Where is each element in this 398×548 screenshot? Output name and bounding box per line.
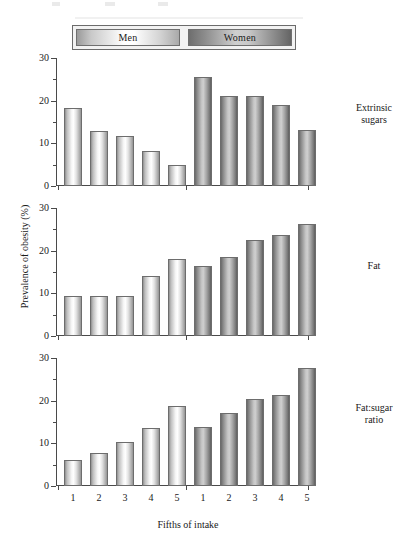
bar-women-2 xyxy=(220,413,238,486)
bar-women-5 xyxy=(298,368,316,486)
bar-men-5 xyxy=(168,259,186,336)
bar-women-1 xyxy=(194,427,212,486)
panel-fat-sugar-ratio: 01020301234512345Fat:sugarratio xyxy=(56,358,308,486)
y-tick-major xyxy=(51,358,56,359)
panel-label-line1: Fat:sugar xyxy=(318,402,398,414)
bar-men-2 xyxy=(90,131,108,186)
y-axis-line xyxy=(56,208,57,336)
y-tick-major xyxy=(51,58,56,59)
x-tick xyxy=(186,186,187,190)
y-tick-minor xyxy=(53,315,56,316)
x-tick xyxy=(308,486,309,490)
x-tick xyxy=(58,336,59,340)
y-tick-major xyxy=(51,401,56,402)
y-tick-label: 30 xyxy=(39,353,49,363)
x-tick-label: 5 xyxy=(305,492,310,503)
bar-women-3 xyxy=(246,96,264,186)
y-tick-label: 10 xyxy=(39,138,49,148)
y-tick-minor xyxy=(53,122,56,123)
y-tick-label: 20 xyxy=(39,96,49,106)
panel-label: Fat:sugarratio xyxy=(318,402,398,426)
bar-men-2 xyxy=(90,296,108,336)
bar-women-2 xyxy=(220,257,238,336)
scan-artifact xyxy=(52,2,60,6)
x-tick-label: 2 xyxy=(227,492,232,503)
bar-men-5 xyxy=(168,406,186,486)
bar-men-2 xyxy=(90,453,108,486)
x-tick-label: 1 xyxy=(201,492,206,503)
bar-men-3 xyxy=(116,442,134,486)
panel-label: Fat xyxy=(318,260,398,272)
bar-men-3 xyxy=(116,136,134,186)
panel-label: Extrinsicsugars xyxy=(318,102,398,126)
bar-women-1 xyxy=(194,266,212,336)
bar-women-4 xyxy=(272,105,290,186)
x-axis-title: Fifths of intake xyxy=(0,519,376,530)
y-tick-major xyxy=(51,251,56,252)
x-tick-label: 3 xyxy=(123,492,128,503)
plot-area: 0102030 xyxy=(56,208,308,336)
bar-men-4 xyxy=(142,428,160,486)
panel-extrinsic-sugars: 0102030Extrinsicsugars xyxy=(56,58,308,186)
x-tick-label: 5 xyxy=(175,492,180,503)
y-tick-major xyxy=(51,336,56,337)
legend-swatch-men: Men xyxy=(76,29,180,46)
y-tick-major xyxy=(51,186,56,187)
legend-swatch-women: Women xyxy=(188,29,292,46)
x-tick-label: 2 xyxy=(97,492,102,503)
y-tick-label: 10 xyxy=(39,438,49,448)
legend-label-men: Men xyxy=(118,32,137,43)
y-tick-minor xyxy=(53,229,56,230)
bar-men-1 xyxy=(64,460,82,486)
bar-women-3 xyxy=(246,240,264,336)
y-tick-label: 20 xyxy=(39,396,49,406)
scan-artifact xyxy=(75,17,303,19)
x-tick-label: 4 xyxy=(279,492,284,503)
bar-women-5 xyxy=(298,130,316,186)
x-tick xyxy=(308,336,309,340)
x-tick xyxy=(186,336,187,340)
y-tick-label: 0 xyxy=(44,181,49,191)
scan-artifact xyxy=(158,2,168,6)
panel-label-line1: Extrinsic xyxy=(318,102,398,114)
y-tick-minor xyxy=(53,272,56,273)
x-tick-label: 3 xyxy=(253,492,258,503)
bar-men-3 xyxy=(116,296,134,336)
y-tick-minor xyxy=(53,422,56,423)
chart-legend: Men Women xyxy=(72,25,296,50)
bar-women-4 xyxy=(272,395,290,486)
bar-men-4 xyxy=(142,151,160,186)
y-axis-line xyxy=(56,358,57,486)
y-tick-major xyxy=(51,143,56,144)
x-tick-label: 1 xyxy=(71,492,76,503)
y-tick-major xyxy=(51,293,56,294)
y-tick-label: 30 xyxy=(39,203,49,213)
legend-label-women: Women xyxy=(224,32,256,43)
y-tick-label: 10 xyxy=(39,288,49,298)
x-tick xyxy=(58,486,59,490)
y-tick-minor xyxy=(53,465,56,466)
bar-men-4 xyxy=(142,276,160,336)
x-tick xyxy=(186,486,187,490)
bar-women-2 xyxy=(220,96,238,186)
panel-fat: 0102030Fat xyxy=(56,208,308,336)
y-tick-minor xyxy=(53,165,56,166)
x-tick-label: 4 xyxy=(149,492,154,503)
panel-label-line2: sugars xyxy=(318,114,398,126)
x-tick xyxy=(58,186,59,190)
y-axis-title: Prevalence of obesity (%) xyxy=(19,167,30,347)
x-tick xyxy=(308,186,309,190)
y-tick-label: 30 xyxy=(39,53,49,63)
y-tick-major xyxy=(51,486,56,487)
plot-area: 01020301234512345 xyxy=(56,358,308,486)
bar-women-3 xyxy=(246,399,264,486)
panel-label-line1: Fat xyxy=(318,260,398,272)
plot-area: 0102030 xyxy=(56,58,308,186)
panel-label-line2: ratio xyxy=(318,414,398,426)
y-tick-major xyxy=(51,101,56,102)
scan-artifact xyxy=(105,2,115,6)
y-tick-label: 20 xyxy=(39,246,49,256)
y-tick-label: 0 xyxy=(44,331,49,341)
y-tick-label: 0 xyxy=(44,481,49,491)
bar-men-5 xyxy=(168,165,186,186)
